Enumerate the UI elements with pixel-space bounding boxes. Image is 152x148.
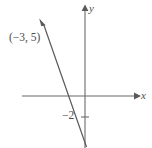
y-axis-arrowhead-icon [82, 5, 89, 12]
coordinate-plane-figure: x y (−3, 5) −2 [0, 0, 152, 148]
graph-canvas [0, 0, 152, 148]
x-axis-label: x [141, 90, 146, 101]
y-axis-label: y [89, 3, 94, 14]
plotted-line [44, 24, 87, 147]
x-axis-arrowhead-icon [134, 92, 141, 99]
y-intercept-label: −2 [62, 110, 74, 122]
line-arrowhead-icon [39, 19, 45, 27]
point-coordinate-label: (−3, 5) [9, 32, 40, 44]
